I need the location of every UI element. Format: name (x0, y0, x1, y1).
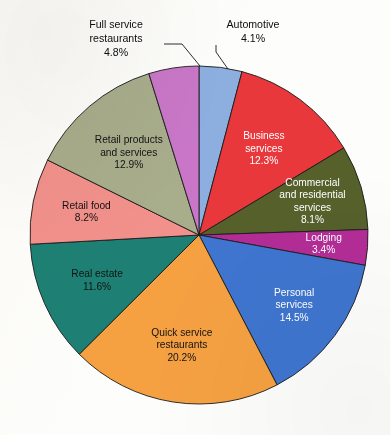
pie-chart-figure: Businessservices12.3%Commercialand resid… (0, 0, 390, 435)
leader-line-automotive (216, 45, 228, 69)
pie-outer-labels-group: Full servicerestaurants4.8%Automotive4.1… (89, 18, 279, 58)
leader-line-full-service-restaurants (164, 44, 200, 66)
pie-chart-svg: Businessservices12.3%Commercialand resid… (0, 0, 390, 435)
pie-leader-lines-group (164, 44, 228, 69)
pie-label-full-service-restaurants: Full servicerestaurants4.8% (89, 18, 143, 58)
pie-label-personal-services: Personalservices14.5% (274, 286, 314, 322)
pie-label-automotive: Automotive4.1% (227, 18, 280, 44)
